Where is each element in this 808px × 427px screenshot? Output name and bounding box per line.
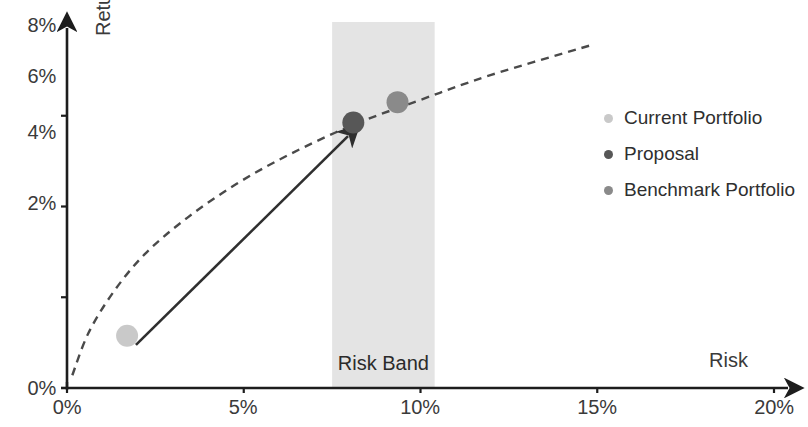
risk-band-region bbox=[332, 22, 435, 388]
legend-item-current-portfolio: Current Portfolio bbox=[604, 100, 804, 136]
legend-swatch-benchmark-portfolio bbox=[604, 186, 613, 195]
data-point-benchmark-portfolio bbox=[387, 91, 409, 113]
x-axis-title: Risk bbox=[709, 349, 748, 372]
x-tick-label-5: 5% bbox=[203, 396, 283, 419]
risk-band-label: Risk Band bbox=[332, 352, 435, 375]
legend-label-proposal: Proposal bbox=[624, 143, 699, 165]
x-tick-label-15: 15% bbox=[557, 396, 637, 419]
legend-item-benchmark-portfolio: Benchmark Portfolio bbox=[604, 172, 804, 208]
y-tick-label-2: 2% bbox=[0, 192, 56, 215]
x-tick-label-20: 20% bbox=[734, 396, 808, 419]
x-tick-label-10: 10% bbox=[380, 396, 460, 419]
legend-item-proposal: Proposal bbox=[604, 136, 804, 172]
x-tick-label-0: 0% bbox=[27, 396, 107, 419]
efficient-frontier-curve bbox=[72, 45, 590, 375]
chart-legend: Current Portfolio Proposal Benchmark Por… bbox=[604, 100, 804, 208]
y-tick-label-8: 8% bbox=[0, 14, 56, 37]
y-axis-title: Return bbox=[92, 0, 115, 36]
risk-return-chart: 8% 6% 4% 2% 0% 0% 5% 10% 15% 20% Return … bbox=[0, 0, 808, 427]
data-point-current-portfolio bbox=[116, 325, 138, 347]
data-point-proposal bbox=[342, 112, 364, 134]
legend-swatch-current-portfolio bbox=[604, 114, 613, 123]
transition-arrow bbox=[136, 136, 348, 345]
y-tick-label-6: 6% bbox=[0, 65, 56, 88]
y-tick-label-4: 4% bbox=[0, 121, 56, 144]
legend-swatch-proposal bbox=[604, 150, 613, 159]
legend-label-current-portfolio: Current Portfolio bbox=[624, 107, 762, 129]
legend-label-benchmark-portfolio: Benchmark Portfolio bbox=[624, 179, 795, 201]
